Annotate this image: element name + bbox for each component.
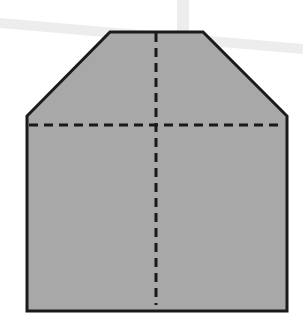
faint-vertical-band [177,0,189,32]
diagram-canvas [0,0,303,322]
